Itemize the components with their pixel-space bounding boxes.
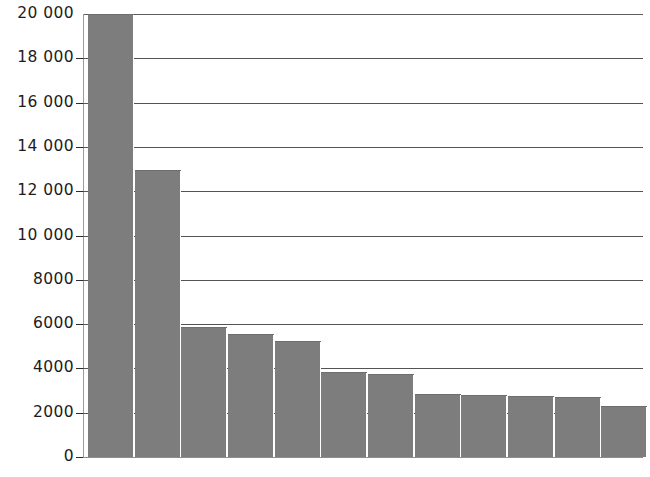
y-axis-tick-mark (76, 457, 83, 458)
bar (601, 406, 647, 457)
y-axis-tick-label: 10 000 (0, 228, 74, 244)
bar-top-edge (368, 374, 414, 375)
bar-top-edge (275, 341, 321, 342)
bar (461, 395, 507, 457)
bar-top-edge (321, 372, 367, 373)
y-axis-tick-mark (76, 324, 83, 325)
bar (321, 372, 367, 457)
y-axis-tick-mark (76, 368, 83, 369)
bar (508, 396, 554, 457)
bar (555, 397, 601, 457)
y-axis-tick-mark (76, 191, 83, 192)
y-axis-tick-label: 2000 (0, 405, 74, 421)
plot-area (83, 14, 643, 457)
y-axis-tick-label: 6000 (0, 316, 74, 332)
y-axis-tick-mark (76, 58, 83, 59)
bar-top-edge (228, 334, 274, 335)
y-axis-tick-mark (76, 147, 83, 148)
bar-chart: 0200040006000800010 00012 00014 00016 00… (0, 0, 650, 477)
y-axis-tick-label: 8000 (0, 272, 74, 288)
y-axis-tick-mark (76, 413, 83, 414)
bar (415, 394, 461, 457)
y-axis-tick-label: 16 000 (0, 95, 74, 111)
y-axis-tick-label: 0 (0, 449, 74, 465)
y-axis-tick-mark (76, 236, 83, 237)
bar (228, 334, 274, 457)
y-axis: 0200040006000800010 00012 00014 00016 00… (0, 0, 74, 477)
bar-top-edge (508, 396, 554, 397)
bar-top-edge (601, 406, 647, 407)
x-axis-line (83, 457, 643, 458)
y-axis-tick-label: 14 000 (0, 139, 74, 155)
bar-top-edge (181, 327, 227, 328)
bar-top-edge (461, 395, 507, 396)
bar (88, 14, 134, 457)
y-axis-tick-label: 4000 (0, 361, 74, 377)
bar-top-edge (88, 14, 134, 15)
y-axis-tick-mark (76, 103, 83, 104)
bar (275, 341, 321, 457)
bar (135, 170, 181, 457)
bar-top-edge (415, 394, 461, 395)
y-axis-tick-label: 20 000 (0, 6, 74, 22)
bars-series (83, 14, 643, 457)
bar (368, 374, 414, 457)
y-axis-tick-label: 12 000 (0, 183, 74, 199)
bar (181, 327, 227, 457)
bar-top-edge (135, 170, 181, 171)
y-axis-tick-label: 18 000 (0, 51, 74, 67)
bar-top-edge (555, 397, 601, 398)
y-axis-tick-mark (76, 280, 83, 281)
